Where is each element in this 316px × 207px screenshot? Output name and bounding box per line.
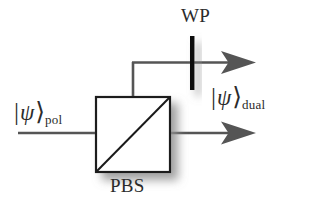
ket-angle-output: ⟩ xyxy=(232,83,242,110)
label-input-state: |ψ⟩pol xyxy=(14,99,62,126)
label-waveplate: WP xyxy=(181,6,210,25)
ket-subscript-input: pol xyxy=(45,112,62,127)
ket-angle-input: ⟩ xyxy=(35,98,45,125)
ket-symbol-output: ψ xyxy=(216,85,232,110)
ket-symbol-input: ψ xyxy=(19,100,35,125)
waveplate-bar xyxy=(190,36,195,90)
label-beamsplitter: PBS xyxy=(110,176,145,195)
figure-canvas: |ψ⟩pol |ψ⟩dual WP PBS xyxy=(0,0,316,207)
label-output-state: |ψ⟩dual xyxy=(211,84,265,111)
waveplate-rect xyxy=(190,36,195,90)
ket-subscript-output: dual xyxy=(242,97,265,112)
